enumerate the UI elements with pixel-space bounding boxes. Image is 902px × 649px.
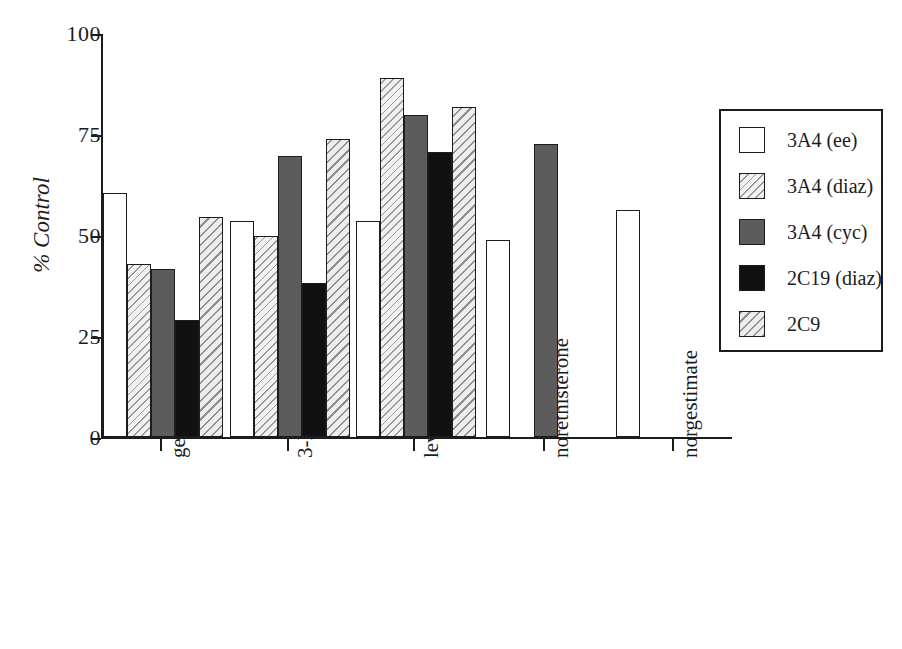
x-tick-mark-gestodene [160, 439, 162, 451]
bar [428, 152, 452, 437]
legend-label-2c19-diaz: 2C19 (diaz) [787, 268, 882, 288]
bar [486, 240, 510, 437]
y-tick-75: 75 [0, 124, 101, 146]
legend-item-3a4-cyc: 3A4 (cyc) [739, 217, 868, 247]
bar [278, 156, 302, 437]
bar [380, 78, 404, 437]
bar [127, 264, 151, 437]
y-tick-mark-0 [91, 438, 101, 440]
bar [230, 221, 254, 437]
bar [302, 283, 326, 437]
legend-label-3a4-ee: 3A4 (ee) [787, 130, 858, 150]
legend-item-3a4-ee: 3A4 (ee) [739, 125, 858, 155]
legend-swatch-2c9 [739, 311, 765, 337]
x-tick-mark-norethisterone [543, 439, 545, 451]
bar [151, 269, 175, 437]
bar [254, 236, 278, 438]
bar [616, 210, 640, 437]
legend-label-3a4-diaz: 3A4 (diaz) [787, 176, 873, 196]
legend-item-2c9: 2C9 [739, 309, 820, 339]
legend-label-3a4-cyc: 3A4 (cyc) [787, 222, 868, 242]
legend-swatch-3a4-cyc [739, 219, 765, 245]
y-tick-25: 25 [0, 326, 101, 348]
bar-chart-figure: 100 75 50 25 0 % Control gestodene 3-ket… [0, 0, 902, 649]
legend-swatch-3a4-diaz [739, 173, 765, 199]
legend-item-2c19-diaz: 2C19 (diaz) [739, 263, 882, 293]
legend-item-3a4-diaz: 3A4 (diaz) [739, 171, 873, 201]
y-tick-mark-100 [91, 34, 101, 36]
bar [326, 139, 350, 437]
x-tick-mark-levonorgestral [413, 439, 415, 451]
legend-label-2c9: 2C9 [787, 314, 820, 334]
x-axis-line [101, 437, 732, 439]
legend-swatch-2c19-diaz [739, 265, 765, 291]
y-axis-title: % Control [29, 145, 55, 305]
bar [356, 221, 380, 437]
y-tick-mark-25 [91, 337, 101, 339]
bar [175, 320, 199, 437]
y-tick-100: 100 [0, 23, 101, 45]
x-axis-label-norgestimate: norgestimate [680, 350, 701, 458]
legend: 3A4 (ee) 3A4 (diaz) 3A4 (cyc) 2C19 (diaz… [719, 109, 883, 352]
y-tick-mark-75 [91, 135, 101, 137]
bar [534, 144, 558, 437]
y-tick-0: 0 [0, 427, 101, 449]
bar [452, 107, 476, 437]
bar [404, 115, 428, 437]
bar [103, 193, 127, 437]
y-tick-mark-50 [91, 236, 101, 238]
x-tick-mark-3-keto-desogestral [287, 439, 289, 451]
x-tick-mark-norgestimate [672, 439, 674, 451]
legend-swatch-3a4-ee [739, 127, 765, 153]
bar [199, 217, 223, 437]
